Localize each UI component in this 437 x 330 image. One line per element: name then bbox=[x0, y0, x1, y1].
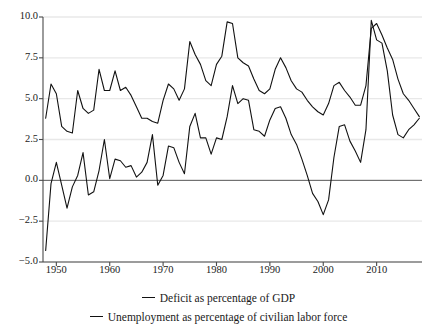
x-axis-tick-labels: 1950196019701980199020002010 bbox=[0, 0, 437, 290]
legend-item-label: Unemployment as percentage of civilian l… bbox=[108, 311, 347, 323]
legend-item[interactable]: Deficit as percentage of GDP bbox=[0, 288, 437, 307]
x-tick-label: 1980 bbox=[194, 265, 238, 276]
legend-line-icon bbox=[142, 297, 155, 298]
x-tick-label: 1990 bbox=[248, 265, 292, 276]
chart-figure: 10.07.55.02.50.0−2.5−5.0 195019601970198… bbox=[0, 0, 437, 330]
legend-line-icon bbox=[90, 316, 103, 317]
x-tick-label: 1950 bbox=[34, 265, 78, 276]
legend-item[interactable]: Unemployment as percentage of civilian l… bbox=[0, 307, 437, 326]
legend-item-label: Deficit as percentage of GDP bbox=[160, 292, 295, 304]
x-tick-label: 1960 bbox=[88, 265, 132, 276]
chart-legend: Deficit as percentage of GDP Unemploymen… bbox=[0, 288, 437, 326]
x-tick-label: 2010 bbox=[355, 265, 399, 276]
x-tick-label: 2000 bbox=[301, 265, 345, 276]
x-tick-label: 1970 bbox=[141, 265, 185, 276]
